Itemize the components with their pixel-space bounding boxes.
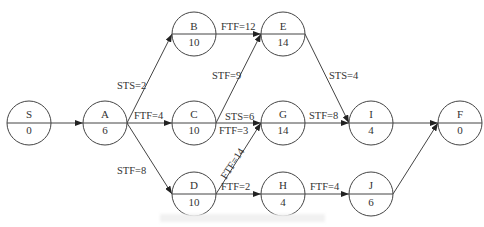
edge-label-D-G: FTF=14 [218,146,246,182]
node-S: S 0 [7,101,51,145]
node-B: B 10 [172,12,216,56]
node-duration: 10 [189,196,201,208]
node-name: G [279,108,287,120]
edge-label-D-H: FTF=2 [221,181,250,192]
node-duration: 10 [189,36,201,48]
node-duration: 6 [102,124,108,136]
node-name: J [369,179,374,191]
node-duration: 0 [26,124,32,136]
node-duration: 14 [278,124,290,136]
node-name: S [26,108,32,120]
node-duration: 0 [457,124,463,136]
edge-label-H-J: FTF=4 [310,181,340,192]
node-name: H [279,179,287,191]
node-A: A 6 [83,101,127,145]
node-name: D [190,179,198,191]
edge-labels: STS=2 FTF=4 STF=8 FTF=12 STF=9 STS=6 FTF… [117,21,359,192]
edge-label-C-G-sts: STS=6 [225,111,254,122]
edge-A-D [127,123,172,194]
node-duration: 10 [189,124,201,136]
edge-label-A-D: STF=8 [117,165,146,176]
edge-label-G-I: STF=8 [309,110,338,121]
edge-label-A-C: FTF=4 [134,110,164,121]
edge-label-E-I: STS=4 [329,70,359,81]
node-duration: 4 [280,196,286,208]
network-diagram: STS=2 FTF=4 STF=8 FTF=12 STF=9 STS=6 FTF… [0,0,484,227]
node-name: A [101,108,109,120]
edge-label-A-B: STS=2 [117,80,146,91]
edge-label-B-E: FTF=12 [221,21,256,32]
faint-caption-remnant [160,214,325,222]
node-name: F [457,108,463,120]
node-F: F 0 [438,101,482,145]
node-J: J 6 [349,172,393,216]
node-name: B [190,20,197,32]
node-name: E [280,20,287,32]
node-I: I 4 [349,101,393,145]
node-duration: 6 [368,196,374,208]
node-G: G 14 [261,101,305,145]
node-E: E 14 [261,12,305,56]
node-D: D 10 [172,172,216,216]
node-name: I [369,108,373,120]
node-name: C [190,108,197,120]
edge-J-F [393,123,438,194]
edge-label-C-E: STF=9 [212,70,241,81]
node-C: C 10 [172,101,216,145]
edge-label-C-G-ftf: FTF=3 [219,125,248,136]
node-duration: 14 [278,36,290,48]
node-H: H 4 [261,172,305,216]
node-duration: 4 [368,124,374,136]
